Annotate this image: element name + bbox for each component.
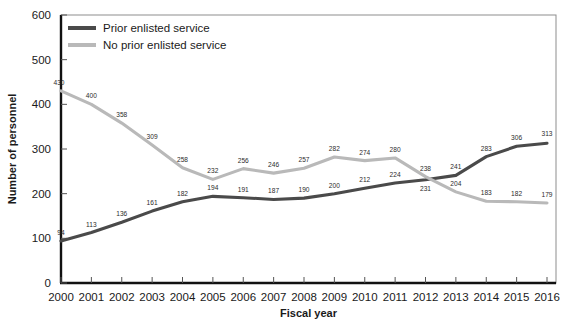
data-point-label: 113 [86, 221, 97, 228]
data-point-label: 182 [511, 190, 522, 197]
data-point-label: 246 [268, 161, 279, 168]
legend-label: No prior enlisted service [103, 39, 226, 51]
x-tick-label: 2010 [352, 291, 378, 303]
data-point-label: 400 [86, 92, 97, 99]
data-point-label: 274 [359, 149, 370, 156]
legend-label: Prior enlisted service [103, 22, 210, 34]
data-point-label: 191 [238, 186, 249, 193]
data-point-label: 283 [481, 145, 492, 152]
chart-svg: 0100200300400500600 20002001200220032004… [0, 0, 566, 326]
data-point-label: 136 [116, 210, 127, 217]
data-point-label: 224 [390, 171, 401, 178]
y-tick-label: 0 [45, 277, 51, 289]
x-tick-label: 2002 [109, 291, 135, 303]
data-point-label: 179 [541, 191, 552, 198]
data-point-label: 257 [298, 156, 309, 163]
data-point-label: 190 [298, 186, 309, 193]
data-point-label: 204 [450, 180, 461, 187]
data-point-label: 241 [450, 163, 461, 170]
data-point-label: 94 [57, 229, 65, 236]
x-axis-title: Fiscal year [280, 307, 338, 319]
x-tick-label: 2012 [413, 291, 439, 303]
x-tick-label: 2005 [200, 291, 226, 303]
y-tick-label: 600 [32, 9, 51, 21]
data-point-label: 309 [147, 133, 158, 140]
data-point-label: 238 [420, 165, 431, 172]
y-tick-label: 400 [32, 98, 51, 110]
x-tick-label: 2014 [473, 291, 499, 303]
data-point-label: 306 [511, 134, 522, 141]
x-tick-label: 2016 [534, 291, 560, 303]
x-tick-label: 2001 [79, 291, 105, 303]
y-tick-label: 100 [32, 232, 51, 244]
y-tick-label: 200 [32, 188, 51, 200]
line-chart: 0100200300400500600 20002001200220032004… [0, 0, 566, 326]
data-point-label: 161 [147, 199, 158, 206]
data-point-label: 182 [177, 190, 188, 197]
x-tick-label: 2007 [261, 291, 287, 303]
data-point-label: 358 [116, 111, 127, 118]
x-tick-label: 2000 [48, 291, 74, 303]
x-tick-label: 2009 [322, 291, 348, 303]
y-tick-label: 500 [32, 54, 51, 66]
data-point-label: 256 [238, 157, 249, 164]
data-point-label: 183 [481, 189, 492, 196]
data-point-label: 231 [420, 185, 431, 192]
x-tick-label: 2013 [443, 291, 469, 303]
x-tick-label: 2015 [504, 291, 530, 303]
y-tick-label: 300 [32, 143, 51, 155]
data-point-label: 280 [390, 146, 401, 153]
data-point-label: 430 [53, 79, 64, 86]
data-point-label: 313 [541, 130, 552, 137]
data-point-label: 194 [207, 184, 218, 191]
chart-background [0, 0, 566, 326]
data-point-label: 200 [329, 182, 340, 189]
x-tick-label: 2006 [230, 291, 256, 303]
x-tick-label: 2004 [170, 291, 196, 303]
x-tick-label: 2003 [139, 291, 165, 303]
data-point-label: 232 [207, 167, 218, 174]
data-point-label: 187 [268, 187, 279, 194]
y-axis-title: Number of personnel [6, 94, 18, 205]
data-point-label: 212 [359, 176, 370, 183]
data-point-label: 282 [329, 145, 340, 152]
data-point-label: 258 [177, 156, 188, 163]
x-tick-label: 2008 [291, 291, 317, 303]
x-tick-label: 2011 [383, 291, 408, 303]
